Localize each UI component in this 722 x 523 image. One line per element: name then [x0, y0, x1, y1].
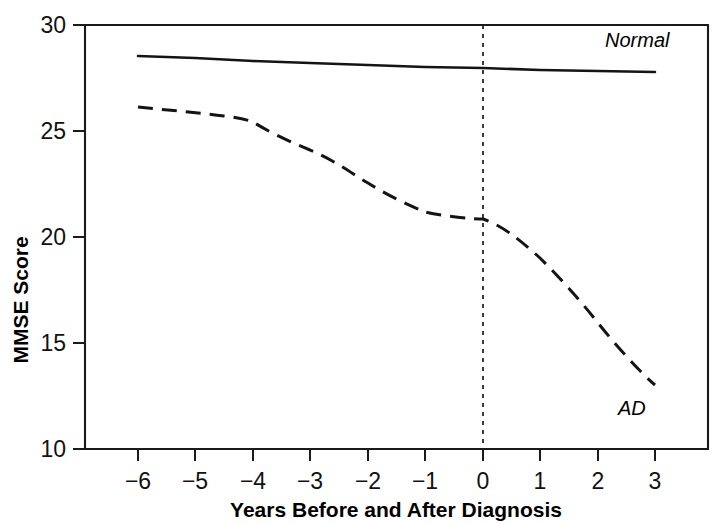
y-tick-label-10: 10 [40, 436, 66, 462]
x-tick-label-2: 2 [592, 468, 605, 494]
x-axis-ticks [138, 449, 655, 461]
y-axis-ticks [73, 25, 85, 449]
x-tick-label--2: −2 [355, 468, 381, 494]
y-tick-label-25: 25 [40, 118, 66, 144]
x-tick-label--4: −4 [240, 468, 266, 494]
y-axis-title: MMSE Score [9, 236, 32, 363]
x-tick-label--1: −1 [412, 468, 438, 494]
y-axis-tick-labels: 30 25 20 15 10 [40, 12, 66, 462]
chart-figure: 30 25 20 15 10 MMSE Score −6 −5 −4 −3 [0, 0, 722, 523]
y-tick-label-30: 30 [40, 12, 66, 38]
series-line-ad [138, 107, 655, 385]
x-tick-label-3: 3 [649, 468, 662, 494]
x-axis-tick-labels: −6 −5 −4 −3 −2 −1 0 1 2 3 [125, 468, 662, 494]
x-axis-title: Years Before and After Diagnosis [230, 498, 562, 521]
series-line-normal [138, 56, 655, 72]
plot-frame [85, 25, 708, 449]
mmse-decline-line-chart: 30 25 20 15 10 MMSE Score −6 −5 −4 −3 [0, 0, 722, 523]
series-label-ad: AD [617, 397, 646, 419]
series-label-normal: Normal [605, 29, 670, 51]
x-tick-label--6: −6 [125, 468, 151, 494]
y-tick-label-15: 15 [40, 330, 66, 356]
x-tick-label-1: 1 [534, 468, 547, 494]
x-tick-label-0: 0 [477, 468, 490, 494]
y-tick-label-20: 20 [40, 224, 66, 250]
axes-box [85, 25, 708, 449]
x-tick-label--3: −3 [297, 468, 323, 494]
x-tick-label--5: −5 [182, 468, 208, 494]
